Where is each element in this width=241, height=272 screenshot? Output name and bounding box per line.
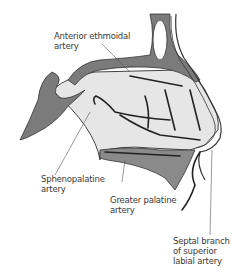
label-line: of superior — [173, 246, 230, 256]
label-line: artery — [110, 205, 176, 215]
frontal-sinus — [153, 20, 167, 60]
label-line: Sphenopalatine — [41, 174, 105, 184]
label-greater-palatine-artery: Greater palatine artery — [110, 195, 176, 215]
label-anterior-ethmoidal-artery: Anterior ethmoidal artery — [54, 31, 130, 51]
label-sphenopalatine-artery: Sphenopalatine artery — [41, 174, 105, 194]
label-line: artery — [54, 41, 130, 51]
label-line: Greater palatine — [110, 195, 176, 205]
label-line: labial artery — [173, 256, 230, 266]
label-line: Septal branch — [173, 236, 230, 246]
label-line: artery — [41, 184, 105, 194]
label-septal-branch-superior-labial-artery: Septal branch of superior labial artery — [173, 236, 230, 266]
septum-region — [52, 70, 218, 160]
label-line: Anterior ethmoidal — [54, 31, 130, 41]
